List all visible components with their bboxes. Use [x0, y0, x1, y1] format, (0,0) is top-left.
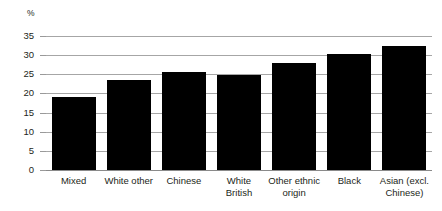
- x-axis-category-label: WhiteBritish: [211, 175, 266, 198]
- x-axis-label-line: White: [211, 175, 266, 187]
- x-axis-label-line: Chinese): [377, 187, 432, 199]
- y-axis-tick-label: 25: [0, 69, 34, 79]
- bar: [272, 63, 316, 170]
- x-axis-category-label: Other ethnicorigin: [267, 175, 322, 198]
- y-axis-tick-label: 5: [0, 146, 34, 156]
- y-axis-unit-label: %: [27, 8, 35, 18]
- x-axis-category-label: Chinese: [156, 175, 211, 187]
- x-axis-labels: MixedWhite otherChineseWhiteBritishOther…: [46, 175, 432, 211]
- x-axis-label-line: Black: [322, 175, 377, 187]
- x-axis-category-label: Mixed: [46, 175, 101, 187]
- x-axis-label-line: Other ethnic: [267, 175, 322, 187]
- x-axis-label-line: White other: [101, 175, 156, 187]
- bar: [107, 80, 151, 170]
- x-axis-label-line: origin: [267, 187, 322, 199]
- bar: [162, 72, 206, 170]
- bar: [52, 97, 96, 170]
- x-axis-label-line: Mixed: [46, 175, 101, 187]
- y-axis-tick-label: 15: [0, 108, 34, 118]
- y-axis-tick-label: 20: [0, 88, 34, 98]
- x-axis-category-label: Black: [322, 175, 377, 187]
- x-axis-category-label: White other: [101, 175, 156, 187]
- bar-chart: % 35302520151050 MixedWhite otherChinese…: [0, 0, 442, 211]
- bar: [327, 54, 371, 170]
- x-axis-label-line: British: [211, 187, 266, 199]
- y-axis-tick-mark: [40, 170, 46, 171]
- bar: [217, 75, 261, 170]
- y-axis-tick-label: 0: [0, 165, 34, 175]
- y-axis-tick-label: 35: [0, 31, 34, 41]
- bars-layer: [46, 36, 432, 170]
- y-axis-tick-label: 30: [0, 50, 34, 60]
- x-axis-label-line: Chinese: [156, 175, 211, 187]
- x-axis-category-label: Asian (excl.Chinese): [377, 175, 432, 198]
- bar: [382, 46, 426, 170]
- x-axis-label-line: Asian (excl.: [377, 175, 432, 187]
- axis-baseline: [46, 170, 432, 171]
- y-axis-tick-label: 10: [0, 127, 34, 137]
